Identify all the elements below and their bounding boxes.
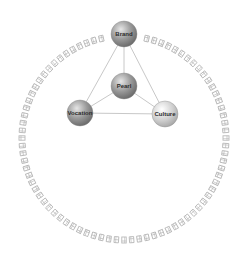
ring-glyph-icon: [220, 158, 227, 164]
ring-glyph-icon: [223, 128, 229, 133]
ring-glyph-icon: [26, 98, 33, 104]
ring-glyph-icon: [23, 165, 30, 171]
brand-label: Brand: [115, 31, 133, 37]
ring-glyph-icon: [76, 42, 83, 49]
ring-glyph-icon: [178, 219, 185, 226]
ring-glyph-icon: [19, 143, 25, 148]
ring-glyph-icon: [172, 46, 179, 53]
ring-glyph-icon: [158, 40, 164, 47]
ring-glyph-icon: [209, 84, 216, 91]
ring-glyph-icon: [190, 209, 197, 216]
ring-glyph-icon: [122, 237, 126, 243]
node-group: BrandPearlVocationCulture: [67, 21, 178, 127]
ring-glyph-icon: [57, 214, 64, 221]
ring-glyph-icon: [184, 214, 191, 221]
ring-glyph-icon: [158, 229, 164, 236]
ring-glyph-icon: [144, 234, 150, 241]
ring-glyph-icon: [195, 204, 202, 211]
ring-glyph-icon: [114, 237, 119, 243]
ring-glyph-icon: [32, 84, 39, 91]
ring-glyph-icon: [41, 71, 48, 78]
ring-glyph-icon: [63, 219, 70, 226]
ring-glyph-icon: [84, 229, 90, 236]
ring-glyph-icon: [41, 198, 48, 205]
ring-glyph-icon: [91, 232, 97, 239]
ring-glyph-icon: [220, 112, 227, 118]
ring-glyph-icon: [215, 172, 222, 178]
ring-glyph-icon: [46, 65, 53, 72]
ring-glyph-icon: [151, 232, 157, 239]
ring-glyph-icon: [215, 98, 222, 104]
ring-glyph-icon: [36, 77, 43, 84]
ring-glyph-icon: [28, 179, 35, 186]
ring-glyph-icon: [84, 40, 90, 47]
ring-glyph-icon: [200, 198, 207, 205]
ring-glyph-icon: [98, 234, 104, 241]
ring-glyph-icon: [209, 186, 216, 193]
ring-glyph-icon: [57, 55, 64, 62]
ring-glyph-icon: [129, 237, 134, 243]
ring-glyph-icon: [222, 120, 229, 125]
ring-glyph-icon: [184, 55, 191, 62]
ring-glyph-icon: [28, 90, 35, 97]
ring-glyph-icon: [51, 60, 58, 67]
ring-glyph-icon: [205, 77, 212, 84]
ring-glyph-icon: [70, 46, 77, 53]
ring-glyph-icon: [218, 105, 225, 111]
ring-glyph-icon: [32, 186, 39, 193]
ring-glyph-icon: [222, 151, 229, 156]
triad-diagram: BrandPearlVocationCulture: [0, 0, 247, 264]
ring-glyph-icon: [19, 128, 25, 133]
node-vocation: Vocation: [67, 100, 93, 126]
ring-glyph-icon: [98, 35, 104, 42]
ring-glyph-icon: [223, 143, 229, 148]
ring-glyph-icon: [190, 60, 197, 67]
ring-glyph-icon: [20, 120, 27, 125]
ring-glyph-icon: [137, 236, 142, 243]
ring-glyph-icon: [36, 192, 43, 199]
ring-glyph-icon: [172, 223, 179, 230]
ring-glyph-icon: [63, 50, 70, 57]
edge-brand-culture: [124, 34, 165, 114]
ring-glyph-icon: [165, 42, 172, 49]
culture-label: Culture: [155, 111, 177, 117]
ring-glyph-icon: [21, 112, 28, 118]
ring-glyph-icon: [106, 236, 111, 243]
node-brand: Brand: [111, 21, 137, 47]
pearl-label: Pearl: [117, 83, 132, 89]
vocation-label: Vocation: [68, 110, 93, 116]
ring-glyph-icon: [151, 37, 157, 44]
ring-glyph-icon: [51, 209, 58, 216]
ring-glyph-icon: [165, 226, 172, 233]
ring-glyph-icon: [212, 90, 219, 97]
ring-glyph-icon: [20, 151, 27, 156]
ring-glyph-icon: [200, 71, 207, 78]
ring-glyph-icon: [91, 37, 97, 44]
ring-glyph-icon: [205, 192, 212, 199]
ring-glyph-icon: [26, 172, 33, 178]
ring-glyph-icon: [195, 65, 202, 72]
ring-glyph-icon: [178, 50, 185, 57]
ring-glyph-icon: [70, 223, 77, 230]
ring-glyph-icon: [212, 179, 219, 186]
edge-brand-vocation: [80, 34, 124, 113]
ring-glyph-icon: [21, 158, 28, 164]
ring-glyph-icon: [23, 105, 30, 111]
ring-glyph-icon: [144, 35, 150, 42]
ring-glyph-icon: [46, 204, 53, 211]
ring-glyph-icon: [19, 136, 25, 140]
node-culture: Culture: [152, 101, 178, 127]
ring-glyph-icon: [76, 226, 83, 233]
ring-glyph-icon: [218, 165, 225, 171]
node-pearl: Pearl: [111, 73, 137, 99]
ring-glyph-icon: [223, 136, 229, 140]
